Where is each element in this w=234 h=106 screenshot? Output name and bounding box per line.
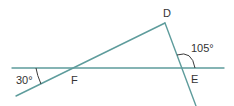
point-label-e: E: [191, 73, 198, 85]
angle-label-105: 105°: [191, 42, 214, 54]
angle-label-30: 30°: [16, 74, 33, 86]
angle-arc-30: [36, 68, 41, 84]
line-through-f-to-d: [16, 23, 165, 96]
geometry-diagram: 30° 105° D F E: [0, 0, 234, 106]
point-label-d: D: [163, 7, 171, 19]
point-label-f: F: [71, 74, 78, 86]
line-d-through-e: [165, 23, 196, 106]
